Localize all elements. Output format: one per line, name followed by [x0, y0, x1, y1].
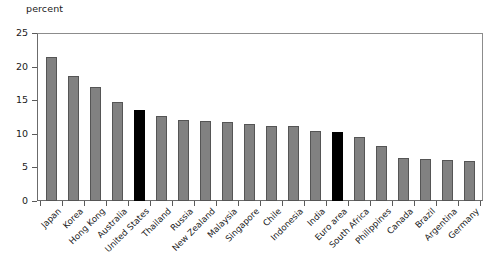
bar [200, 121, 211, 201]
y-axis-tick-label: 25 [16, 27, 28, 38]
bar [90, 87, 101, 201]
bar-slot [238, 33, 260, 201]
bar-slot [414, 33, 436, 201]
bar [464, 161, 475, 201]
bar [310, 131, 321, 201]
y-axis-tick-label: 20 [16, 61, 28, 72]
bar-slot [348, 33, 370, 201]
bar [134, 110, 145, 201]
bar-slot [326, 33, 348, 201]
bar [112, 102, 123, 201]
bar-slot [40, 33, 62, 201]
bar [178, 120, 189, 201]
bar [68, 76, 79, 201]
bar [442, 160, 453, 201]
bar [46, 57, 57, 201]
bar-slot [216, 33, 238, 201]
bar-slot [392, 33, 414, 201]
y-axis-tick-label: 0 [22, 195, 28, 206]
bar [376, 146, 387, 201]
bar-slot [370, 33, 392, 201]
y-axis-tick-mark [32, 33, 37, 34]
y-axis-tick-label: 10 [16, 128, 28, 139]
bar-slot [194, 33, 216, 201]
bar [222, 122, 233, 201]
y-axis-tick-mark [32, 134, 37, 135]
bar [354, 137, 365, 201]
y-axis-tick-mark [32, 201, 37, 202]
bar-slot [150, 33, 172, 201]
bar-slot [84, 33, 106, 201]
y-axis-tick-label: 15 [16, 94, 28, 105]
bar-slot [304, 33, 326, 201]
bar [156, 116, 167, 201]
bar-slot [172, 33, 194, 201]
bar [332, 132, 343, 201]
bar [398, 158, 409, 201]
bar [266, 126, 277, 201]
bar-slot [260, 33, 282, 201]
bar-slot [282, 33, 304, 201]
bar-slot [458, 33, 480, 201]
x-axis-label-text: Japan [39, 206, 63, 230]
bars-area [38, 33, 482, 201]
y-axis-tick-mark [32, 67, 37, 68]
bar [244, 124, 255, 201]
x-axis-labels: JapanKoreaHong KongAustraliaUnited State… [38, 206, 482, 275]
y-axis-tick-mark [32, 100, 37, 101]
bar-slot [106, 33, 128, 201]
bar [420, 159, 431, 201]
y-axis-tick-mark [32, 167, 37, 168]
bar-slot [436, 33, 458, 201]
bar-chart: percent 0510152025 JapanKoreaHong KongAu… [0, 0, 500, 275]
bar-slot [128, 33, 150, 201]
bar [288, 126, 299, 201]
bar-slot [62, 33, 84, 201]
y-axis-unit-label: percent [26, 3, 63, 14]
y-axis-tick-label: 5 [22, 161, 28, 172]
